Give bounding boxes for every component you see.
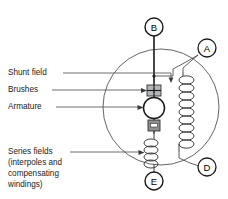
leader-arrow-brushes (141, 88, 147, 93)
brush-negative (148, 120, 160, 134)
armature-circle (144, 98, 165, 119)
leader-arrow-armature (138, 105, 144, 110)
brush-positive-sign: + (151, 86, 156, 96)
leader-arrow-series-fields (139, 150, 145, 155)
motor-schematic-figure: + B A (0, 0, 228, 199)
shunt-field-coil (179, 72, 194, 152)
terminal-d[interactable]: D (198, 158, 216, 176)
label-series-fields-line3: compensating (8, 169, 59, 178)
terminal-e-label: E (151, 176, 157, 187)
label-series-fields-line2: (interpoles and (8, 158, 63, 167)
terminal-d-label: D (204, 162, 211, 173)
label-armature: Armature (8, 102, 42, 111)
leader-arrow-shunt-field (169, 77, 174, 83)
brush-positive: + (147, 85, 161, 96)
wire-shunt-coil-bottom-to-d (179, 152, 199, 166)
terminal-b-label: B (151, 22, 157, 33)
series-field-coil (144, 134, 158, 172)
label-series-fields-line1: Series fields (8, 147, 53, 156)
terminal-a-label: A (204, 43, 211, 54)
label-brushes: Brushes (8, 85, 38, 94)
terminal-a[interactable]: A (198, 39, 216, 57)
terminal-b[interactable]: B (145, 18, 163, 36)
schematic-canvas: + B A (0, 0, 228, 199)
terminal-e[interactable]: E (145, 172, 163, 190)
label-series-fields-line4: windings) (7, 180, 43, 189)
label-shunt-field: Shunt field (8, 68, 47, 77)
